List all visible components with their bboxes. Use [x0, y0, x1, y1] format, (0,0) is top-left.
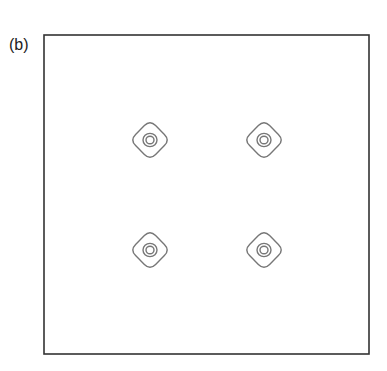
contour-peak-top-left — [133, 123, 167, 157]
contour-line-middle — [143, 243, 157, 256]
contour-peak-top-right — [247, 123, 281, 157]
plot-frame — [44, 35, 369, 354]
contour-peak-bottom-left — [133, 233, 167, 267]
contour-line-outer — [247, 123, 281, 157]
contour-line-middle — [257, 133, 271, 146]
contour-line-outer — [133, 123, 167, 157]
contour-line-middle — [257, 243, 271, 256]
contour-line-inner — [260, 136, 268, 144]
contour-line-middle — [143, 133, 157, 146]
contour-line-outer — [247, 233, 281, 267]
contour-line-inner — [146, 246, 154, 254]
contour-peak-bottom-right — [247, 233, 281, 267]
contour-plot — [0, 0, 387, 371]
contour-line-inner — [146, 136, 154, 144]
contour-line-outer — [133, 233, 167, 267]
contour-line-inner — [260, 246, 268, 254]
